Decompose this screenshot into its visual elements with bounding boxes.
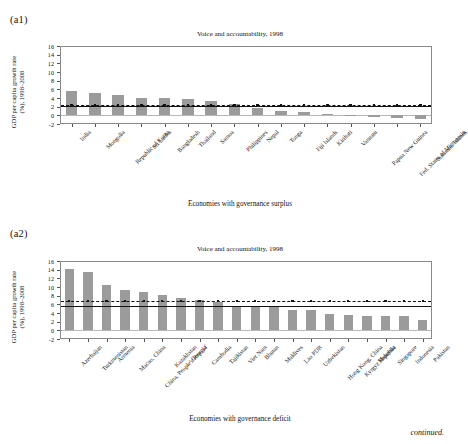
y-tick-label: 2 [40, 318, 54, 325]
x-axis-title-a1: Economies with governance surplus [90, 200, 390, 208]
x-tick-mark [188, 124, 189, 127]
x-tick-mark [404, 339, 405, 342]
reference-line-solid [61, 306, 431, 307]
panel-label-a1: (a1) [10, 14, 28, 25]
bar [344, 315, 353, 330]
y-tick-mark [57, 296, 60, 297]
bar [195, 300, 204, 331]
y-tick-label: 2 [40, 103, 54, 110]
y-tick-mark [57, 313, 60, 314]
y-tick-mark [57, 46, 60, 47]
y-axis-title-a2-line1: GDP per capita growth rate [10, 271, 17, 343]
y-tick-mark [57, 278, 60, 279]
y-tick-mark [57, 81, 60, 82]
bar [381, 316, 390, 330]
x-tick-label: Philippines [245, 129, 269, 153]
reference-marker [161, 300, 163, 302]
y-tick-label: 14 [40, 51, 54, 58]
chart-title-a2: Voice and accountability, 1998 [60, 245, 420, 253]
reference-marker [366, 300, 368, 302]
x-tick-label: Bangladesh [176, 129, 200, 153]
bar [139, 292, 148, 331]
y-tick-label: -2 [40, 336, 54, 343]
y-tick-mark [57, 98, 60, 99]
x-tick-mark [144, 339, 145, 342]
y-tick-label: 12 [40, 275, 54, 282]
x-tick-mark [293, 339, 294, 342]
x-axis-title-a2: Economies with governance deficit [90, 415, 390, 423]
y-tick-label: 8 [40, 292, 54, 299]
reference-marker [217, 300, 219, 302]
y-tick-mark [57, 72, 60, 73]
x-tick-mark [348, 339, 349, 342]
y-axis-title-a1: GDP per capita growth rate (%), 1998–200… [10, 42, 26, 142]
bar [288, 310, 297, 330]
x-tick-mark [237, 339, 238, 342]
chart-title-a1: Voice and accountability, 1998 [60, 30, 420, 38]
x-tick-mark [95, 124, 96, 127]
y-axis-title-a2-line2: (%), 1998–2008 [18, 286, 25, 329]
y-tick-label: 8 [40, 77, 54, 84]
x-tick-mark [397, 124, 398, 127]
bar [322, 114, 334, 115]
panel-label-a2: (a2) [10, 228, 28, 239]
y-tick-label: 0 [40, 112, 54, 119]
x-tick-mark [367, 339, 368, 342]
x-tick-mark [327, 124, 328, 127]
x-tick-mark [107, 339, 108, 342]
x-tick-label: Azerbaijan [80, 344, 103, 367]
bar [232, 306, 241, 331]
reference-marker [291, 300, 293, 302]
reference-marker [254, 300, 256, 302]
x-tick-mark [141, 124, 142, 127]
bar [275, 111, 287, 116]
x-tick-label: Samoa [219, 129, 235, 145]
y-tick-mark [57, 107, 60, 108]
bar [251, 306, 260, 331]
x-tick-mark [420, 124, 421, 127]
bar [399, 316, 408, 330]
x-tick-label: India [78, 129, 91, 142]
reference-marker [105, 300, 107, 302]
x-tick-mark [211, 124, 212, 127]
y-tick-mark [57, 55, 60, 56]
y-tick-mark [57, 322, 60, 323]
x-tick-mark [125, 339, 126, 342]
reference-marker [143, 300, 145, 302]
y-tick-mark [57, 89, 60, 90]
reference-marker [384, 300, 386, 302]
x-tick-label: Solomon Islands [435, 129, 468, 162]
y-tick-label: 4 [40, 95, 54, 102]
reference-marker [198, 300, 200, 302]
y-tick-label: 12 [40, 60, 54, 67]
x-tick-label: Kiribati [336, 129, 354, 147]
bar [325, 314, 334, 330]
y-tick-mark [57, 63, 60, 64]
y-tick-mark [57, 124, 60, 125]
reference-marker [124, 300, 126, 302]
y-tick-label: 0 [40, 327, 54, 334]
reference-line-dashed [61, 301, 431, 302]
y-tick-mark [57, 287, 60, 288]
x-tick-label: Fiji Islands [315, 129, 339, 153]
x-tick-mark [181, 339, 182, 342]
y-tick-label: 14 [40, 266, 54, 273]
x-tick-label: Singapore [396, 344, 418, 366]
x-tick-mark [351, 124, 352, 127]
x-tick-mark [234, 124, 235, 127]
y-tick-label: 4 [40, 310, 54, 317]
zero-line [61, 330, 431, 331]
y-tick-label: 16 [40, 43, 54, 50]
x-tick-mark [330, 339, 331, 342]
bar [368, 115, 380, 116]
x-tick-mark [72, 124, 73, 127]
reference-marker [422, 300, 424, 302]
x-tick-mark [200, 339, 201, 342]
y-tick-label: 10 [40, 69, 54, 76]
bar [298, 112, 310, 115]
x-tick-label: Mongolia [105, 129, 126, 150]
y-tick-mark [57, 270, 60, 271]
x-tick-mark [162, 339, 163, 342]
x-tick-label: Papua New Guinea [391, 129, 429, 167]
